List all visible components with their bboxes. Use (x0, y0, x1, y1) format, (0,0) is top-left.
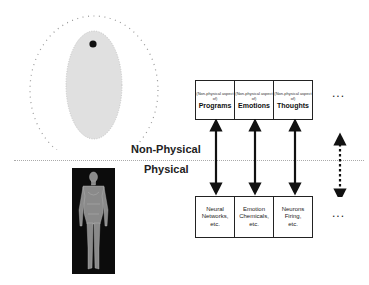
ellipsis-top: ... (332, 86, 345, 100)
box-prefix: (Non-physical aspect of) (235, 91, 273, 101)
physical-label: Physical (144, 163, 189, 175)
box-title: Thoughts (277, 101, 309, 110)
box-line: etc. (288, 221, 298, 229)
box-title: Emotions (238, 101, 270, 110)
human-body-image (72, 168, 115, 274)
box-emotion-chemicals: Emotion Chemicals, etc. (235, 197, 274, 237)
box-line: Chemicals, (239, 213, 269, 221)
box-line: Emotion (243, 206, 265, 214)
box-neurons-firing: Neurons Firing, etc. (274, 197, 312, 237)
box-line: Neurons (282, 206, 305, 214)
non-physical-aspects-row: (Non-physical aspect of) Programs (Non-p… (195, 80, 313, 120)
box-line: Firing, (285, 213, 302, 221)
box-line: etc. (210, 221, 220, 229)
box-thoughts: (Non-physical aspect of) Thoughts (274, 81, 312, 119)
non-physical-label: Non-Physical (131, 143, 201, 155)
core-dot (89, 40, 96, 47)
box-prefix: (Non-physical aspect of) (274, 91, 312, 101)
ellipsis-bottom: ... (332, 206, 345, 220)
box-neural-networks: Neural Networks, etc. (196, 197, 235, 237)
arrows (195, 119, 369, 197)
physical-correlates-row: Neural Networks, etc. Emotion Chemicals,… (195, 196, 313, 238)
box-line: Networks, (202, 213, 229, 221)
box-title: Programs (199, 101, 232, 110)
box-line: etc. (249, 221, 259, 229)
box-programs: (Non-physical aspect of) Programs (196, 81, 235, 119)
box-emotions: (Non-physical aspect of) Emotions (235, 81, 274, 119)
non-physical-self-illustration (0, 0, 185, 150)
box-line: Neural (206, 206, 224, 214)
box-prefix: (Non-physical aspect of) (196, 91, 234, 101)
